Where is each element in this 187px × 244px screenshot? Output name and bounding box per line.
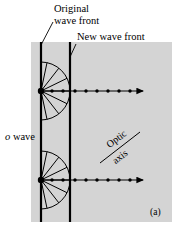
new-wave-front-label: New wave front — [77, 31, 145, 43]
upper-source-point — [38, 88, 44, 94]
o-wave-label-text: wave — [10, 131, 35, 142]
huygens-construction-figure: Original wave front New wave front o wav… — [0, 0, 187, 244]
original-wave-front-label: Original wave front — [54, 3, 99, 27]
original-wave-front-label-line1: Original — [54, 3, 99, 15]
lower-source-point — [38, 177, 44, 183]
panel-letter-label: (a) — [150, 207, 161, 218]
original-wave-front-leader — [41, 22, 53, 45]
original-wave-front-label-line2: wave front — [54, 15, 99, 27]
o-wave-label: o wave — [5, 131, 35, 143]
